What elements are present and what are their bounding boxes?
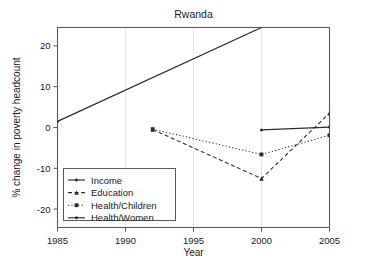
- chart-legend: IncomeEducationHealth/ChildrenHealth/Wom…: [64, 169, 176, 224]
- xtick-label-2000: 2000: [251, 235, 272, 246]
- legend-marker-health-children: [75, 203, 79, 207]
- ytick-label-20: 20: [40, 40, 51, 51]
- legend-label-health-children: Health/Children: [91, 200, 156, 211]
- legend-label-health-women: Health/Women: [91, 212, 154, 223]
- x-axis-label: Year: [183, 247, 204, 258]
- chart-title: Rwanda: [174, 8, 213, 20]
- legend-marker-health-women: [75, 216, 78, 219]
- rwanda-poverty-line-chart: Rwanda 19851990199520002005 20100-10-20 …: [0, 0, 368, 272]
- legend-label-income: Income: [91, 175, 122, 186]
- xtick-label-1990: 1990: [115, 235, 136, 246]
- ytick-label--10: -10: [37, 163, 51, 174]
- ytick-label--20: -20: [37, 204, 51, 215]
- legend-label-education: Education: [91, 187, 133, 198]
- xtick-label-1985: 1985: [47, 235, 68, 246]
- xtick-label-1995: 1995: [183, 235, 204, 246]
- y-axis-label: % change in poverty headcount: [11, 57, 22, 197]
- series-marker-health-children-1: [260, 153, 264, 157]
- ytick-label-10: 10: [40, 81, 51, 92]
- legend-marker-income: [75, 179, 78, 182]
- series-marker-health-women-0: [260, 128, 263, 131]
- chart-figure: Rwanda 19851990199520002005 20100-10-20 …: [0, 0, 368, 272]
- figure-background: [0, 0, 368, 272]
- ytick-label-0: 0: [45, 122, 50, 133]
- xtick-label-2005: 2005: [319, 235, 340, 246]
- series-marker-health-children-0: [151, 127, 155, 131]
